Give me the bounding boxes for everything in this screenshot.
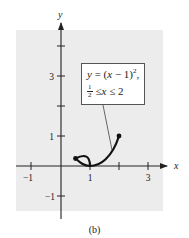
frac-denominator: 2 (88, 92, 92, 99)
figure-caption: (b) (0, 224, 189, 235)
x-tick-label-3: 3 (146, 173, 151, 183)
eq-mid: = ( (92, 68, 107, 80)
plot-background (16, 30, 163, 211)
y-axis-label: y (57, 9, 63, 20)
endpoint-right (117, 134, 122, 139)
x-axis-label: x (173, 160, 179, 171)
x-tick-label-neg1: −1 (23, 173, 33, 183)
endpoint-left (73, 156, 78, 161)
eq-suffix: − 1) (112, 68, 133, 80)
eq-comma: , (137, 68, 140, 80)
y-tick-label-neg1: −1 (45, 192, 55, 202)
equation-line-1: y = (x − 1)2, (87, 68, 144, 80)
eq-leq-2: ≤ 2 (106, 86, 123, 97)
graph: −1 1 3 3 1 −1 x y (0, 0, 189, 238)
y-tick-label-1: 1 (49, 132, 54, 142)
equation-label-box: y = (x − 1)2, 12 ≤ x ≤ 2 (81, 63, 145, 105)
fraction-one-half: 12 (87, 84, 93, 99)
y-tick-label-3: 3 (49, 72, 54, 82)
x-tick-label-1: 1 (88, 173, 93, 183)
equation-line-2: 12 ≤ x ≤ 2 (87, 84, 144, 99)
